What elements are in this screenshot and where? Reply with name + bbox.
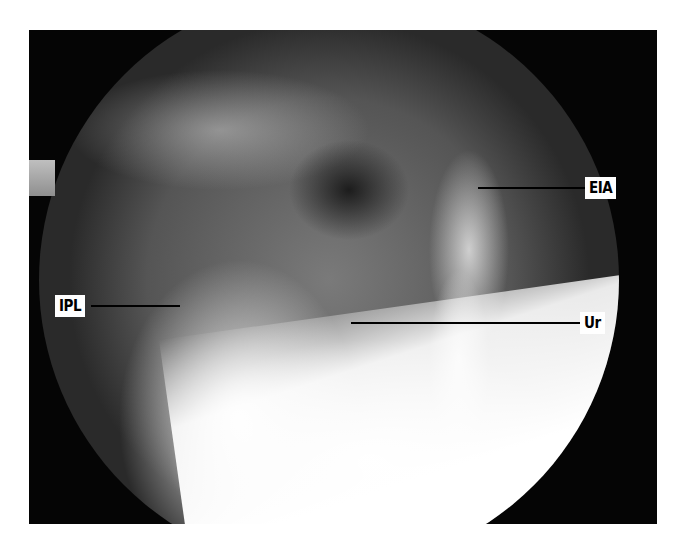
ur-leader-line — [351, 322, 580, 324]
ipl-leader-line — [91, 305, 180, 307]
bright-tissue-region — [159, 262, 619, 524]
endoscopic-circular-view — [39, 30, 619, 524]
eia-label: EIA — [585, 177, 616, 199]
ipl-label: IPL — [55, 295, 85, 317]
ur-label: Ur — [580, 312, 605, 334]
laparoscopic-image-frame — [29, 30, 657, 524]
instrument-tip — [29, 160, 55, 196]
eia-leader-line — [478, 187, 586, 189]
